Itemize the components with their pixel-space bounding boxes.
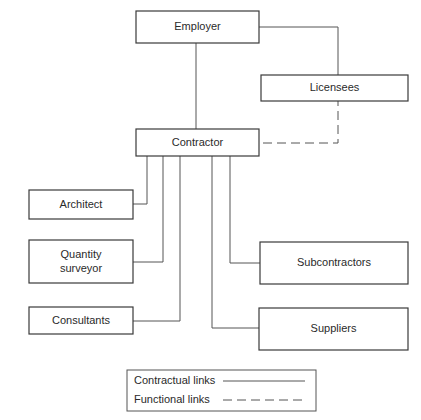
node-subcontractors: Subcontractors [260, 242, 408, 284]
contract-diagram: Employer Licensees Contractor Architect … [0, 0, 421, 420]
link-contractor-architect [133, 156, 147, 204]
node-consultants-label: Consultants [52, 314, 111, 326]
node-quantity-surveyor-label-2: surveyor [60, 262, 103, 274]
node-subcontractors-label: Subcontractors [297, 256, 371, 268]
node-licensees-label: Licensees [310, 81, 360, 93]
node-quantity-surveyor-label-1: Quantity [61, 248, 102, 260]
legend-contractual-label: Contractual links [134, 374, 216, 386]
node-contractor: Contractor [136, 129, 259, 156]
link-contractor-quantity-surveyor [133, 156, 163, 262]
node-licensees: Licensees [261, 75, 408, 101]
node-contractor-label: Contractor [172, 136, 224, 148]
link-contractor-suppliers [212, 156, 259, 328]
link-contractor-consultants [133, 156, 180, 321]
node-quantity-surveyor: Quantity surveyor [29, 240, 133, 283]
node-suppliers: Suppliers [259, 308, 408, 350]
node-employer-label: Employer [174, 20, 221, 32]
node-architect-label: Architect [60, 198, 103, 210]
node-suppliers-label: Suppliers [311, 322, 357, 334]
link-employer-licensees [259, 27, 338, 75]
node-employer: Employer [136, 11, 259, 43]
link-contractor-subcontractors [230, 156, 260, 263]
node-architect: Architect [29, 190, 133, 219]
legend: Contractual links Functional links [127, 370, 316, 411]
link-contractor-licensees [263, 101, 338, 143]
legend-functional-label: Functional links [134, 393, 210, 405]
node-consultants: Consultants [29, 307, 133, 334]
